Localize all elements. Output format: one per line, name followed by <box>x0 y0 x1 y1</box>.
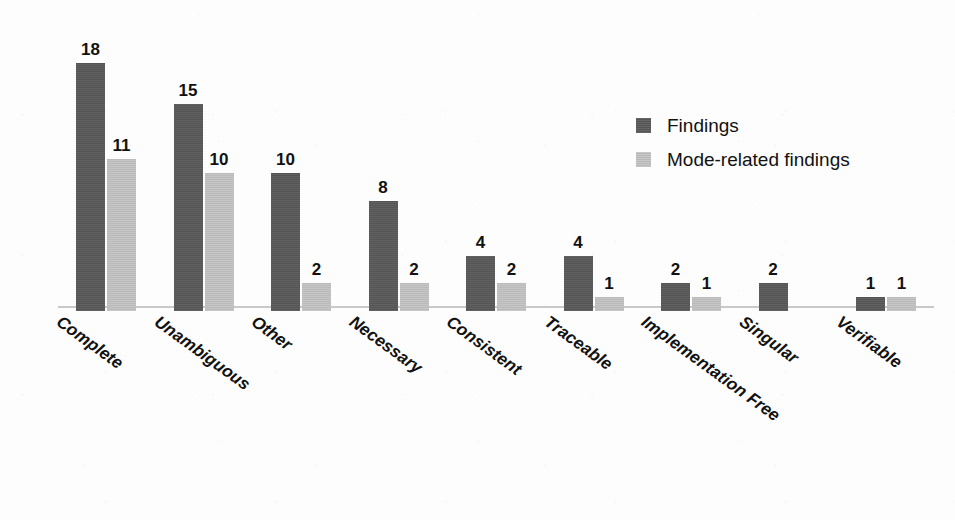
x-axis-tick-label: Singular <box>735 312 802 368</box>
bar-fill <box>369 201 398 311</box>
bar-fill <box>856 297 885 311</box>
bar-fill <box>564 256 593 311</box>
bar-value-label: 4 <box>476 234 485 251</box>
bar-value-label: 1 <box>866 275 875 292</box>
legend-label-findings: Findings <box>667 116 739 135</box>
bar[interactable]: 10 <box>205 173 234 311</box>
bar-value-label: 1 <box>604 275 613 292</box>
bar-fill <box>271 173 300 311</box>
bar-fill <box>887 297 916 311</box>
bar[interactable]: 1 <box>692 297 721 311</box>
bar-fill <box>595 297 624 311</box>
bar-value-label: 10 <box>276 151 295 168</box>
bar-value-label: 2 <box>312 261 321 278</box>
x-axis-tick-label: Traceable <box>540 312 616 375</box>
bar[interactable]: 2 <box>497 283 526 311</box>
bar[interactable]: 2 <box>759 283 788 311</box>
bar-value-label: 8 <box>378 179 387 196</box>
bar[interactable]: 11 <box>107 159 136 311</box>
bar-value-label: 15 <box>179 82 198 99</box>
bar-value-label: 2 <box>409 261 418 278</box>
bar-fill <box>661 283 690 311</box>
x-axis-tick-label: Unambiguous <box>150 312 253 395</box>
bar[interactable]: 2 <box>302 283 331 311</box>
bar[interactable]: 2 <box>661 283 690 311</box>
bar[interactable]: 18 <box>76 63 105 311</box>
x-axis-tick-label: Consistent <box>442 312 525 380</box>
bar-value-label: 4 <box>573 234 582 251</box>
chart-legend: Findings Mode-related findings <box>636 108 936 176</box>
bar-fill <box>205 173 234 311</box>
bar-fill <box>76 63 105 311</box>
bar[interactable]: 10 <box>271 173 300 311</box>
legend-label-mode-related-findings: Mode-related findings <box>667 150 850 169</box>
bar-fill <box>174 104 203 311</box>
bar[interactable]: 2 <box>400 283 429 311</box>
bar[interactable]: 4 <box>466 256 495 311</box>
bar-value-label: 10 <box>210 151 229 168</box>
x-axis-tick-labels: CompleteUnambiguousOtherNecessaryConsist… <box>0 312 955 520</box>
light-gray-swatch-icon <box>636 152 651 167</box>
bar-chart: 1811151010282424121211 CompleteUnambiguo… <box>0 0 955 520</box>
bar-fill <box>497 283 526 311</box>
bar-value-label: 18 <box>81 41 100 58</box>
x-axis-tick-label: Other <box>247 312 295 355</box>
bar[interactable]: 1 <box>595 297 624 311</box>
bar[interactable]: 1 <box>887 297 916 311</box>
dark-gray-swatch-icon <box>636 118 651 133</box>
bar[interactable]: 15 <box>174 104 203 311</box>
legend-item-findings[interactable]: Findings <box>636 108 936 142</box>
bar-fill <box>400 283 429 311</box>
x-axis-tick-label: Verifiable <box>832 312 905 373</box>
bar-value-label: 2 <box>671 261 680 278</box>
x-axis-tick-label: Complete <box>52 312 126 374</box>
bar-fill <box>466 256 495 311</box>
bar-value-label: 1 <box>702 275 711 292</box>
bar[interactable]: 8 <box>369 201 398 311</box>
bar-fill <box>302 283 331 311</box>
legend-item-mode-related-findings[interactable]: Mode-related findings <box>636 142 936 176</box>
bar-value-label: 2 <box>768 261 777 278</box>
bar-fill <box>759 283 788 311</box>
bar-fill <box>692 297 721 311</box>
bar[interactable]: 1 <box>856 297 885 311</box>
bar-value-label: 11 <box>113 137 131 154</box>
bar-fill <box>107 159 136 311</box>
x-axis-tick-label: Necessary <box>345 312 426 378</box>
bar-value-label: 2 <box>507 261 516 278</box>
bar[interactable]: 4 <box>564 256 593 311</box>
bar-value-label: 1 <box>897 275 906 292</box>
